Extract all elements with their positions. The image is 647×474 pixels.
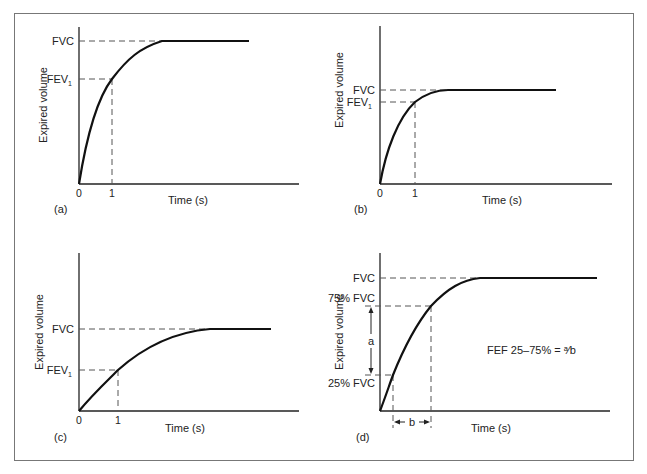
volume-time-curve	[79, 41, 249, 184]
panel-c: FVC FEV1 Expired volume 0 1 Time (s) (c)	[33, 253, 299, 443]
fev1-label: FEV1	[347, 96, 372, 110]
panel-d: a b FVC 75% FVC 25% FVC Expired volume T…	[328, 253, 610, 443]
tick-0: 0	[377, 187, 383, 199]
x-axis-label: Time (s)	[471, 422, 511, 434]
panel-letter: (c)	[54, 431, 67, 443]
tick-1: 1	[109, 187, 115, 199]
y-axis-label: Expired volume	[333, 294, 345, 370]
y-axis-label: Expired volume	[333, 52, 345, 128]
tick-0: 0	[76, 414, 82, 426]
y-axis-label: Expired volume	[37, 67, 49, 143]
panel-letter: (a)	[54, 203, 67, 215]
panel-letter: (b)	[354, 203, 367, 215]
volume-time-curve	[79, 329, 271, 411]
panel-a: FVC FEV1 Expired volume 0 1 Time (s) (a)	[37, 27, 299, 215]
b-label: b	[409, 416, 415, 428]
panel-b: FVC FEV1 Expired volume 0 1 Time (s) (b)	[333, 26, 612, 215]
panel-letter: (d)	[356, 431, 369, 443]
x-axis-label: Time (s)	[168, 194, 208, 206]
p25-label: 25% FVC	[328, 377, 375, 389]
b-arrow: b	[394, 416, 430, 428]
x-axis-label: Time (s)	[165, 422, 205, 434]
a-arrow: a	[368, 307, 375, 374]
fvc-label: FVC	[353, 84, 375, 96]
fev1-label: FEV1	[47, 364, 72, 378]
tick-1: 1	[115, 414, 121, 426]
a-label: a	[368, 335, 375, 347]
volume-time-curve	[380, 90, 556, 184]
fvc-label: FVC	[52, 35, 74, 47]
fev1-label: FEV1	[47, 73, 72, 87]
x-axis-label: Time (s)	[482, 194, 522, 206]
tick-0: 0	[76, 187, 82, 199]
y-axis-label: Expired volume	[33, 294, 45, 370]
spirometry-figure: FVC FEV1 Expired volume 0 1 Time (s) (a)…	[0, 0, 647, 474]
fvc-label: FVC	[353, 272, 375, 284]
tick-1: 1	[412, 187, 418, 199]
fef-formula: FEF 25–75% = ᵃ⁄b	[487, 344, 576, 356]
fvc-label: FVC	[52, 323, 74, 335]
